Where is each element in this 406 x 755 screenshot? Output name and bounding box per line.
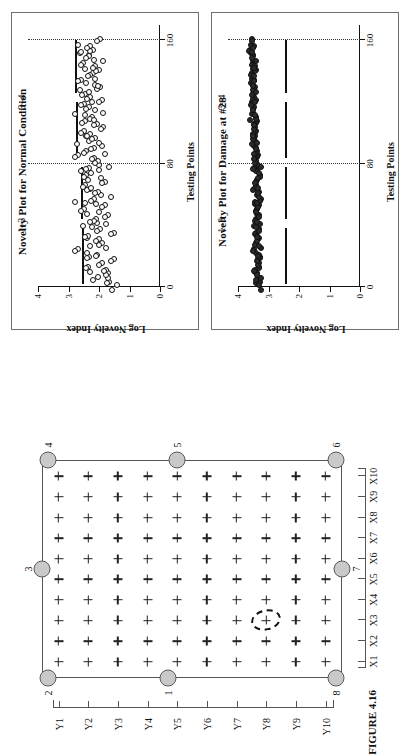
y-axis-tick (326, 701, 327, 708)
data-point (251, 123, 257, 129)
grid-node (143, 616, 152, 625)
data-point (106, 164, 112, 170)
grid-node (202, 554, 211, 563)
data-point (84, 250, 90, 256)
y-tick-label: 0 (155, 294, 165, 299)
x-axis-tick (358, 496, 365, 497)
grid-node (173, 637, 182, 646)
data-point (99, 204, 105, 210)
data-point (256, 214, 262, 220)
grid-node (84, 534, 93, 543)
panel-novelty-damage: Novelty Plot for Damage at #28 012340801… (211, 12, 399, 330)
divider-line (228, 163, 360, 164)
y-axis-label-Y7: Y7 (231, 718, 242, 730)
y-axis-tick (148, 701, 149, 708)
data-point (254, 234, 260, 240)
sensor-2[interactable] (40, 670, 57, 687)
data-point (96, 99, 102, 105)
grid-node (321, 616, 330, 625)
y-tick (38, 287, 39, 292)
grid-node (232, 595, 241, 604)
data-point (81, 174, 87, 180)
sensor-label-2: 2 (43, 691, 54, 696)
sensor-label-1: 1 (163, 691, 174, 696)
grid-node (143, 595, 152, 604)
data-point (251, 65, 257, 71)
x-axis-tick (358, 578, 365, 579)
data-point (82, 234, 88, 240)
grid-node (173, 534, 182, 543)
sensor-3[interactable] (34, 561, 51, 578)
y-tick (330, 287, 331, 292)
data-point (108, 194, 114, 200)
data-point (256, 170, 262, 176)
grid-node (54, 595, 63, 604)
x-tick-label: 80 (165, 159, 175, 168)
grid-node (262, 513, 271, 522)
y-axis-label-Y1: Y1 (53, 718, 64, 730)
grid-node (232, 616, 241, 625)
y-tick-label: 3 (264, 294, 274, 299)
grid-node (262, 575, 271, 584)
sensor-8[interactable] (328, 670, 345, 687)
sensor-6[interactable] (328, 452, 345, 469)
grid-node (291, 492, 300, 501)
data-point (85, 177, 91, 183)
y-tick-label: 2 (94, 294, 104, 299)
grid-node (173, 657, 182, 666)
sensor-4[interactable] (40, 452, 57, 469)
threshold-segment (285, 102, 287, 157)
grid-node (321, 492, 330, 501)
grid-node (262, 492, 271, 501)
data-point (103, 245, 109, 251)
panel-novelty-normal: Novelty Plot for Normal Condition 012340… (11, 12, 199, 330)
y-axis-label: Log Novelty Index (267, 324, 346, 335)
x-tick-label: 160 (365, 34, 375, 48)
data-point (254, 200, 260, 206)
data-point (250, 248, 256, 254)
grid-node (84, 513, 93, 522)
y-axis-label-Y8: Y8 (261, 718, 272, 730)
sensor-label-5: 5 (172, 443, 183, 448)
sensor-7[interactable] (334, 561, 351, 578)
data-point (252, 180, 258, 186)
data-point (250, 167, 256, 173)
grid-node (291, 616, 300, 625)
sensor-1[interactable] (160, 670, 177, 687)
grid-node (321, 637, 330, 646)
y-axis-tick (237, 701, 238, 708)
grid-node (113, 492, 122, 501)
grid-node (113, 513, 122, 522)
y-axis-label-Y9: Y9 (290, 718, 301, 730)
x-axis-label-X3: X3 (368, 614, 379, 626)
figure-caption: FIGURE 4.16 (366, 690, 378, 755)
data-point (100, 110, 106, 116)
grid-node (262, 657, 271, 666)
x-axis-tick (358, 558, 365, 559)
data-point (99, 180, 105, 186)
x-axis-label-X7: X7 (368, 532, 379, 544)
grid-node (232, 637, 241, 646)
sensor-label-3: 3 (23, 567, 34, 572)
grid-node (232, 554, 241, 563)
data-point (254, 258, 260, 264)
data-point (83, 80, 89, 86)
y-axis-label-Y2: Y2 (83, 718, 94, 730)
grid-rotation-wrapper: 12345678X1X2X3X4X5X6X7X8X9X10Y1Y2Y3Y4Y5Y… (0, 418, 406, 718)
data-point (80, 184, 86, 190)
y-axis-tick (88, 701, 89, 708)
grid-node (202, 657, 211, 666)
data-point (80, 223, 86, 229)
x-axis-label-X1: X1 (368, 656, 379, 668)
y-axis-label-Y4: Y4 (142, 718, 153, 730)
data-point (258, 164, 264, 170)
grid-node (143, 554, 152, 563)
data-point (86, 89, 92, 95)
data-point (92, 107, 98, 113)
sensor-label-4: 4 (43, 443, 54, 448)
grid-node (54, 554, 63, 563)
grid-node (113, 637, 122, 646)
grid-node (202, 472, 211, 481)
sensor-5[interactable] (169, 452, 186, 469)
